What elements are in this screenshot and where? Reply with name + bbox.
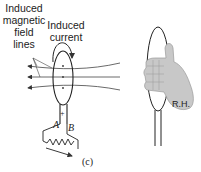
terminal-a-label: A bbox=[53, 119, 59, 130]
induction-diagram: Induced magnetic field lines Induced cur… bbox=[0, 0, 201, 172]
field-label-line4: lines bbox=[0, 38, 48, 50]
figure-caption: (c) bbox=[82, 156, 93, 167]
right-hand-label: R.H. bbox=[172, 99, 190, 109]
field-label-line1: Induced bbox=[0, 2, 48, 14]
current-label: Induced current bbox=[46, 19, 86, 43]
field-lines bbox=[28, 63, 120, 90]
field-label-line3: field bbox=[0, 26, 48, 38]
current-label-line2: current bbox=[46, 31, 86, 43]
terminal-b-label: B bbox=[68, 122, 74, 133]
field-label-line2: magnetic bbox=[0, 14, 48, 26]
field-lines-label: Induced magnetic field lines bbox=[0, 2, 48, 50]
current-label-line1: Induced bbox=[46, 19, 86, 31]
polarity-plus-label: + bbox=[60, 109, 65, 118]
